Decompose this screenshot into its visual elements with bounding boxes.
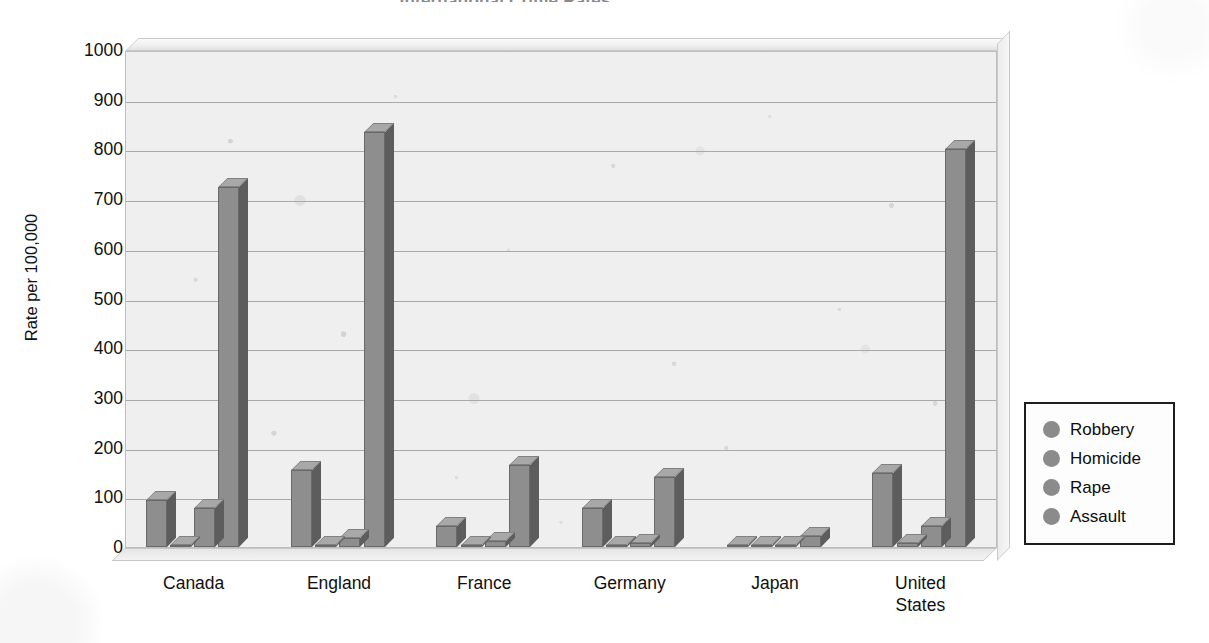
plot-canvas [125,51,997,548]
legend-swatch-circle-icon [1043,421,1060,438]
bar-rape-canada[interactable] [194,508,215,547]
x-axis-tick-line: United [850,572,990,594]
bar-front-face [630,543,651,547]
bar-side-face [385,123,394,547]
bar-assault-england[interactable] [364,132,385,547]
legend-swatch-circle-icon [1043,479,1060,496]
legend-item-robbery[interactable]: Robbery [1026,415,1173,444]
x-axis-tick-england: England [269,572,409,594]
legend-item-label: Homicide [1070,449,1141,469]
bar-front-face [582,508,603,547]
bar-front-face [146,500,167,547]
bar-front-face [897,543,918,547]
bar-side-face [675,468,684,547]
bar-front-face [315,545,336,547]
bar-front-face [436,526,457,547]
y-axis-tick-0: 0 [49,539,123,557]
bar-robbery-canada[interactable] [146,500,167,547]
x-axis-tick-labels: CanadaEnglandFranceGermanyJapanUnitedSta… [125,572,1010,638]
plot-3d-top-face [125,38,1010,51]
x-axis-tick-line: Germany [560,572,700,594]
bar-front-face [170,545,191,547]
x-axis-tick-line: England [269,572,409,594]
bar-side-face [893,464,902,547]
bar-front-face [775,545,796,547]
bar-robbery-germany[interactable] [582,508,603,547]
y-axis-tick-labels: 10009008007006005004003002001000 [49,0,123,643]
x-axis-tick-germany: Germany [560,572,700,594]
bar-homicide-canada[interactable] [170,545,191,547]
legend-item-homicide[interactable]: Homicide [1026,444,1173,473]
chart-title: International Crime Rates [0,0,1010,2]
bar-front-face [606,545,627,547]
bar-robbery-japan[interactable] [727,545,748,547]
bar-front-face [872,473,893,547]
bar-robbery-united-states[interactable] [872,473,893,547]
legend-item-label: Assault [1070,507,1126,527]
bar-homicide-germany[interactable] [606,545,627,547]
bar-front-face [194,508,215,547]
legend-swatch-circle-icon [1043,450,1060,467]
y-axis-tick-500: 500 [49,291,123,309]
legend-item-label: Robbery [1070,420,1134,440]
bar-front-face [218,187,239,547]
plot-3d-right-face [997,31,1010,561]
x-axis-tick-france: France [414,572,554,594]
bar-assault-canada[interactable] [218,187,239,547]
bar-side-face [312,461,321,547]
bar-front-face [945,149,966,547]
bar-front-face [461,545,482,547]
bar-assault-united-states[interactable] [945,149,966,547]
bar-rape-japan[interactable] [775,545,796,547]
bar-homicide-united-states[interactable] [897,543,918,547]
y-axis-tick-700: 700 [49,191,123,209]
legend-swatch-circle-icon [1043,508,1060,525]
bar-series-layer [126,52,996,547]
y-axis-tick-600: 600 [49,241,123,259]
y-axis-tick-100: 100 [49,489,123,507]
y-axis-tick-1000: 1000 [49,42,123,60]
bar-homicide-japan[interactable] [751,545,772,547]
bar-homicide-england[interactable] [315,545,336,547]
bar-front-face [291,470,312,547]
bar-front-face [364,132,385,547]
y-axis-title: Rate per 100,000 [22,168,41,388]
x-axis-tick-line: France [414,572,554,594]
y-axis-tick-300: 300 [49,390,123,408]
bar-robbery-france[interactable] [436,526,457,547]
bar-side-face [966,140,975,547]
x-axis-tick-line: Japan [705,572,845,594]
bar-front-face [751,545,772,547]
x-axis-tick-canada: Canada [124,572,264,594]
bar-front-face [485,541,506,547]
legend-item-assault[interactable]: Assault [1026,502,1173,531]
chart-legend: RobberyHomicideRapeAssault [1024,402,1175,545]
bar-robbery-england[interactable] [291,470,312,547]
x-axis-tick-japan: Japan [705,572,845,594]
bar-homicide-france[interactable] [461,545,482,547]
legend-item-label: Rape [1070,478,1111,498]
y-axis-tick-200: 200 [49,440,123,458]
bar-side-face [530,456,539,547]
bar-rape-germany[interactable] [630,543,651,547]
plot-3d-floor-face [112,548,997,561]
x-axis-tick-line: States [850,594,990,616]
y-axis-tick-800: 800 [49,141,123,159]
x-axis-tick-line: Canada [124,572,264,594]
bar-side-face [239,177,248,547]
y-axis-tick-400: 400 [49,340,123,358]
x-axis-tick-united-states: UnitedStates [850,572,990,617]
bar-rape-france[interactable] [485,541,506,547]
y-axis-tick-900: 900 [49,92,123,110]
bar-front-face [727,545,748,547]
plot-area [125,38,1010,568]
legend-item-rape[interactable]: Rape [1026,473,1173,502]
